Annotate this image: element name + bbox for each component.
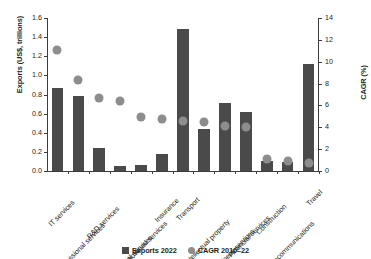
bar — [114, 166, 126, 171]
y-axis-right-tick — [319, 40, 322, 41]
x-axis-tick — [173, 171, 174, 174]
y-axis-left-line — [47, 18, 48, 172]
y-axis-right-tick — [319, 62, 322, 63]
scatter-point — [116, 97, 125, 106]
bar — [219, 103, 231, 171]
y-axis-right-tick — [319, 149, 322, 150]
scatter-point — [95, 93, 104, 102]
scatter-point — [304, 159, 313, 168]
bar — [135, 165, 147, 171]
legend-item-exports: Exports 2022 — [122, 246, 177, 255]
x-axis-label: Travel — [318, 175, 337, 194]
y-axis-left-tick-label: 0.4 — [32, 129, 42, 136]
scatter-point — [283, 157, 292, 166]
y-axis-left-tick-label: 1.0 — [32, 71, 42, 78]
y-axis-right-tick-label: 6 — [325, 101, 329, 108]
bar — [303, 64, 315, 171]
x-axis-label: IT services — [71, 175, 100, 204]
x-axis-label: R&D services — [116, 175, 152, 211]
scatter-point — [158, 114, 167, 123]
bar — [240, 112, 252, 171]
x-axis-tick — [152, 171, 153, 174]
y-axis-right-tick — [319, 84, 322, 85]
plot-area: 0.00.20.40.60.81.01.21.41.6 02468101214 … — [47, 18, 319, 171]
legend-label-cagr: CAGR 2010–22 — [198, 246, 249, 255]
x-axis-tick — [110, 171, 111, 174]
scatter-point — [241, 123, 250, 132]
circle-swatch-icon — [188, 247, 195, 254]
x-axis-tick — [214, 171, 215, 174]
x-axis-tick — [235, 171, 236, 174]
scatter-point — [74, 76, 83, 85]
x-axis-tick — [277, 171, 278, 174]
x-axis-tick — [298, 171, 299, 174]
scatter-point — [53, 45, 62, 54]
y-axis-right-tick-label: 2 — [325, 145, 329, 152]
y-axis-right-tick-label: 8 — [325, 80, 329, 87]
y-axis-right-tick-label: 14 — [325, 14, 333, 21]
bar — [73, 96, 85, 171]
scatter-point — [199, 117, 208, 126]
x-axis-line — [47, 171, 319, 172]
y-axis-left-tick-label: 0.0 — [32, 167, 42, 174]
y-axis-left-tick-label: 0.2 — [32, 148, 42, 155]
scatter-point — [262, 155, 271, 164]
y-axis-right-tick — [319, 105, 322, 106]
y-axis-left-tick — [44, 114, 47, 115]
y-axis-left-tick-label: 0.8 — [32, 91, 42, 98]
y-axis-left-tick — [44, 95, 47, 96]
y-axis-right-title: CAGR (%) — [359, 38, 368, 128]
scatter-point — [137, 112, 146, 121]
y-axis-right-tick-label: 4 — [325, 123, 329, 130]
y-axis-left-tick — [44, 18, 47, 19]
y-axis-left-tick — [44, 152, 47, 153]
chart-legend: Exports 2022 CAGR 2010–22 — [0, 246, 371, 255]
scatter-point — [220, 122, 229, 131]
bar — [198, 129, 210, 171]
bar — [52, 88, 64, 171]
y-axis-left-tick — [44, 75, 47, 76]
y-axis-left-tick — [44, 133, 47, 134]
y-axis-left-tick-label: 1.4 — [32, 33, 42, 40]
square-swatch-icon — [122, 247, 129, 254]
x-axis-tick — [131, 171, 132, 174]
y-axis-left-tick — [44, 37, 47, 38]
y-axis-right-tick-label: 0 — [325, 167, 329, 174]
y-axis-left-tick — [44, 56, 47, 57]
scatter-point — [179, 116, 188, 125]
chart-figure: Exports (US$, trillions) CAGR (%) 0.00.2… — [0, 0, 371, 259]
y-axis-left-tick — [44, 171, 47, 172]
x-axis-tick — [68, 171, 69, 174]
x-axis-tick — [193, 171, 194, 174]
y-axis-left-tick-label: 0.6 — [32, 110, 42, 117]
y-axis-right-tick-label: 12 — [325, 36, 333, 43]
x-axis-tick — [319, 171, 320, 174]
y-axis-left-title: Exports (US$, trillions) — [15, 0, 24, 110]
bar — [93, 148, 105, 171]
y-axis-left-tick-label: 1.2 — [32, 52, 42, 59]
legend-label-exports: Exports 2022 — [132, 246, 177, 255]
x-axis-tick — [256, 171, 257, 174]
bar — [156, 154, 168, 171]
y-axis-right-tick-label: 10 — [325, 58, 333, 65]
y-axis-right-tick — [319, 18, 322, 19]
y-axis-left-tick-label: 1.6 — [32, 14, 42, 21]
bar — [177, 29, 189, 171]
y-axis-right-tick — [319, 127, 322, 128]
x-axis-tick — [89, 171, 90, 174]
legend-item-cagr: CAGR 2010–22 — [188, 246, 249, 255]
